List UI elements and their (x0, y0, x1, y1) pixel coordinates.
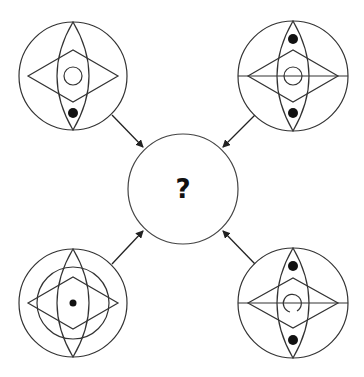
black-dot-bottom (288, 335, 298, 345)
arrow-bottom-left (112, 231, 143, 264)
center-dot (70, 300, 77, 307)
figure-bottom-right (238, 248, 348, 358)
figure-top-left (19, 22, 127, 130)
question-mark: ? (175, 174, 190, 204)
puzzle-diagram: ? (0, 0, 364, 377)
question-circle: ? (128, 134, 238, 244)
black-dot-top (288, 261, 298, 271)
black-dot-top (288, 34, 298, 44)
black-dot (68, 108, 78, 118)
black-dot-bottom (288, 108, 298, 118)
figure-bottom-left (19, 249, 127, 357)
arrow-bottom-right (223, 231, 255, 264)
figure-top-right (238, 21, 348, 131)
arrow-top-left (112, 115, 143, 147)
arrow-top-right (223, 115, 255, 147)
